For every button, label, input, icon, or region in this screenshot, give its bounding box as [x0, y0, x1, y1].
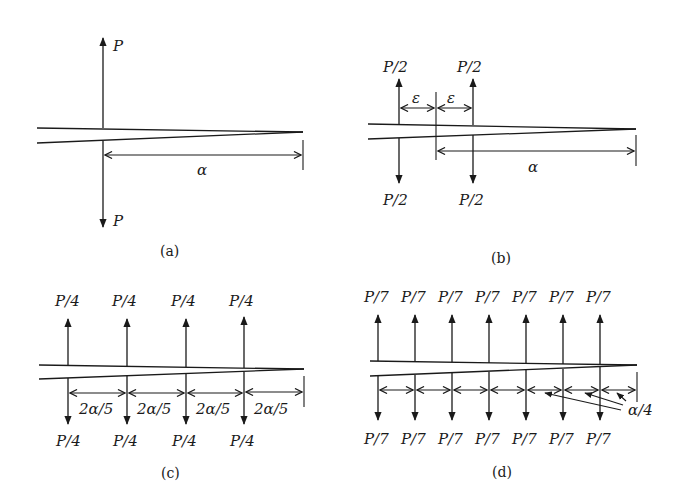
force-label: P/7: [474, 288, 500, 306]
panel-c: P/4 P/4 P/4 P/4 P/4 P/4 P/4 P/4 2α/5 2α/…: [39, 292, 304, 481]
crack-wedge: [39, 365, 304, 379]
caption-c: (c): [161, 465, 180, 481]
crack-wedge: [368, 124, 636, 139]
force-label: P/7: [363, 288, 389, 306]
force-label: P/2: [456, 58, 482, 76]
dimension-label: 2α/5: [136, 400, 171, 418]
force-label: P/7: [585, 430, 611, 448]
force-label: P/7: [548, 288, 574, 306]
force-pair-2: P/2 P/2: [456, 58, 484, 209]
force-label: P/7: [400, 288, 426, 306]
force-label: P/4: [171, 432, 197, 450]
force-label: P/7: [400, 430, 426, 448]
force-pair-1: P/2 P/2: [382, 58, 408, 209]
crack-wedge: [37, 128, 303, 143]
caption-b: (b): [491, 250, 511, 266]
dimension-alpha4: α/4: [380, 372, 653, 419]
force-label: P/2: [382, 58, 408, 76]
force-label: P/7: [511, 430, 537, 448]
force-label: P: [112, 212, 124, 230]
caption-d: (d): [492, 464, 512, 480]
panel-b: P/2 P/2 P/2 P/2 ε ε α (b): [368, 58, 636, 266]
force-label: P/7: [548, 430, 574, 448]
dimension-label: α/4: [628, 401, 653, 419]
force-label: P/7: [363, 430, 389, 448]
dimension-label: ε: [412, 89, 420, 107]
force-label: P/7: [511, 288, 537, 306]
dimension-alpha: α: [438, 135, 636, 176]
dimension-label: 2α/5: [195, 400, 230, 418]
force-label: P/7: [437, 430, 463, 448]
panel-a: P P α (a): [37, 37, 303, 259]
crack-wedge: [370, 361, 637, 376]
force-label: P/7: [474, 430, 500, 448]
dimension-label: α: [197, 161, 207, 179]
force-pair: P P: [103, 37, 124, 230]
force-label: P/4: [54, 292, 80, 310]
caption-a: (a): [160, 243, 179, 259]
force-pairs: P/4 P/4 P/4 P/4 P/4 P/4 P/4 P/4: [54, 292, 255, 450]
dimension-label: 2α/5: [78, 400, 113, 418]
crack-loading-figure: P P α (a) P/2 P/2 P/2 P/2: [0, 0, 684, 504]
force-label: P: [112, 37, 124, 55]
dimension-2alpha5: 2α/5 2α/5 2α/5 2α/5: [70, 376, 304, 418]
force-label: P/4: [55, 432, 81, 450]
force-label: P/4: [229, 432, 255, 450]
dimension-label: ε: [447, 89, 455, 107]
dimension-label: α: [528, 158, 538, 176]
dimension-label: 2α/5: [253, 400, 288, 418]
force-label: P/4: [111, 292, 137, 310]
force-label: P/2: [458, 191, 484, 209]
panel-d: P/7 P/7 P/7 P/7 P/7 P/7 P/7 P/7 P/7 P/7 …: [363, 288, 653, 480]
force-label: P/4: [170, 292, 196, 310]
force-label: P/7: [585, 288, 611, 306]
force-label: P/2: [382, 191, 408, 209]
force-label: P/7: [437, 288, 463, 306]
dimension-alpha: α: [105, 140, 303, 179]
force-label: P/4: [228, 292, 254, 310]
force-label: P/4: [112, 432, 138, 450]
